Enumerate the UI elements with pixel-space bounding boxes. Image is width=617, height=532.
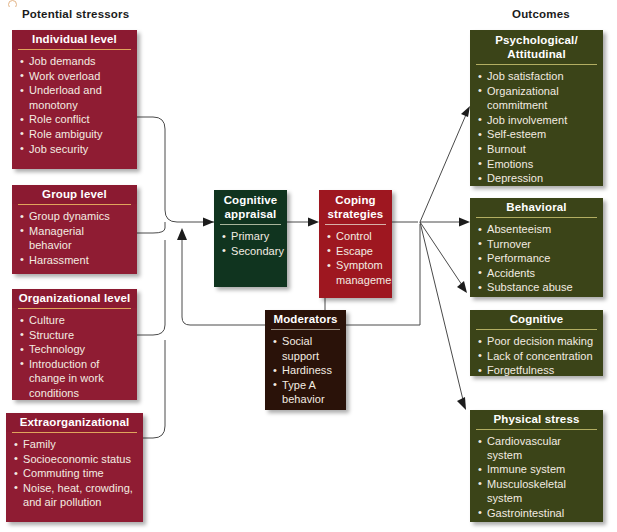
list-item: Primary [222, 230, 281, 244]
box-header: Organizational level [12, 289, 137, 308]
box-header-line2: appraisal [225, 208, 277, 220]
box-item-list: Culture Structure Technology Introductio… [12, 309, 137, 400]
list-item-continuation: conditions [20, 387, 131, 400]
list-item: Job demands [20, 55, 131, 69]
list-item-continuation: monotony [20, 99, 131, 113]
list-item: Introduction of [20, 358, 131, 372]
box-header-line1: Coping [335, 194, 376, 206]
list-item: Depression [478, 172, 597, 186]
center-box-moderators[interactable]: Moderators Social support Hardiness Type… [265, 310, 346, 410]
list-item: Underload and [20, 84, 131, 98]
box-item-list: Absenteeism Turnover Performance Acciden… [470, 218, 603, 297]
box-header: Group level [12, 185, 137, 204]
list-item-continuation: management [327, 274, 386, 288]
list-item: Gastrointestinal [478, 507, 597, 521]
arrowhead-into-cognitive [457, 281, 467, 293]
center-box-cognitive-appraisal[interactable]: Cognitive appraisal Primary Secondary [214, 190, 287, 287]
list-item: Turnover [478, 238, 597, 252]
box-header: Behavioral [470, 198, 603, 217]
list-item: Immune system [478, 463, 597, 477]
outcome-box-cognitive[interactable]: Cognitive Poor decision making Lack of c… [470, 310, 603, 376]
list-item: Accidents [478, 267, 597, 281]
list-item: Noise, heat, crowding, [14, 482, 137, 496]
list-item: Job involvement [478, 114, 597, 128]
list-item: Work overload [20, 70, 131, 84]
connector-organizational-to-bus [137, 240, 165, 335]
list-item: Social [273, 335, 340, 349]
box-header: Cognitive appraisal [214, 190, 287, 224]
box-header-line2: strategies [328, 208, 384, 220]
list-item: Role ambiguity [20, 128, 131, 142]
arrowhead-into-coping [308, 218, 319, 227]
stressor-box-organizational-level[interactable]: Organizational level Culture Structure T… [12, 289, 137, 400]
box-header: Coping strategies [319, 190, 392, 224]
list-item: Poor decision making [478, 335, 597, 349]
box-item-list: Poor decision making Lack of concentrati… [470, 330, 603, 376]
center-box-coping-strategies[interactable]: Coping strategies Control Escape Symptom… [319, 190, 392, 298]
box-item-list: Social support Hardiness Type A behavior [265, 330, 346, 410]
outcome-box-physical-stress[interactable]: Physical stress Cardiovascular system Im… [470, 410, 603, 522]
arrowhead-into-physical [457, 397, 466, 410]
connector-fan-to-physical [420, 222, 464, 404]
list-item: Forgetfulness [478, 364, 597, 376]
list-item: Job security [20, 143, 131, 157]
outcome-box-behavioral[interactable]: Behavioral Absenteeism Turnover Performa… [470, 198, 603, 297]
box-item-list: Job demands Work overload Underload and … [12, 50, 137, 163]
box-item-list: Cardiovascular system Immune system Musc… [470, 430, 603, 522]
list-item: Escape [327, 245, 386, 259]
list-item: Emotions [478, 158, 597, 172]
box-header: Psychological/ Attitudinal [470, 30, 603, 64]
connector-group-to-bus [137, 222, 165, 233]
list-item: Group dynamics [20, 210, 131, 224]
box-header: Extraorganizational [6, 413, 143, 432]
arrowhead-into-appraisal-left [203, 218, 214, 227]
box-item-list: Family Socioeconomic status Commuting ti… [6, 433, 143, 517]
list-item: Organizational [478, 85, 597, 99]
list-item: Self-esteem [478, 128, 597, 142]
stressor-box-group-level[interactable]: Group level Group dynamics Managerial be… [12, 185, 137, 274]
box-header-line1: Cognitive [224, 194, 278, 206]
list-item: Absenteeism [478, 223, 597, 237]
list-item-continuation: change in work [20, 372, 131, 386]
list-item-continuation: commitment [478, 99, 597, 113]
box-item-list: Control Escape Symptom management [319, 225, 392, 294]
list-item: Culture [20, 314, 131, 328]
connector-fan-to-cognitive [420, 222, 464, 288]
list-item-continuation: support [273, 350, 340, 364]
list-item: Burnout [478, 143, 597, 157]
list-item: Family [14, 438, 137, 452]
arrowhead-into-behavioral [459, 218, 470, 227]
stressor-box-individual-level[interactable]: Individual level Job demands Work overlo… [12, 30, 137, 169]
stressor-box-extraorganizational[interactable]: Extraorganizational Family Socioeconomic… [6, 413, 143, 522]
list-item: Symptom [327, 259, 386, 273]
list-item: Type A [273, 379, 340, 393]
box-header-line1: Psychological/ [495, 34, 578, 46]
list-item: Harassment [20, 254, 131, 268]
connector-fan-to-psychological [420, 110, 468, 222]
list-item: Socioeconomic status [14, 453, 137, 467]
list-item: Lack of concentration [478, 350, 597, 364]
box-header: Individual level [12, 30, 137, 49]
list-item: Secondary [222, 245, 281, 259]
list-item: Managerial [20, 225, 131, 239]
list-item-continuation: behavior [273, 393, 340, 407]
box-item-list: Job satisfaction Organizational commitme… [470, 65, 603, 186]
list-item: Commuting time [14, 467, 137, 481]
list-item: Performance [478, 252, 597, 266]
diagram-canvas: Potential stressors Outcomes Indiv [0, 0, 617, 532]
arrowhead-feedback-into-appraisal [177, 228, 187, 240]
list-item: Control [327, 230, 386, 244]
connector-individual-to-appraisal [137, 117, 214, 222]
list-item-continuation: and air pollution [14, 496, 137, 510]
list-item: Structure [20, 329, 131, 343]
list-item: Musculoskeletal [478, 478, 597, 492]
list-item-continuation: behavior [20, 239, 131, 253]
outcome-box-psychological-attitudinal[interactable]: Psychological/ Attitudinal Job satisfact… [470, 30, 603, 186]
box-item-list: Group dynamics Managerial behavior Haras… [12, 205, 137, 274]
box-header-line2: Attitudinal [507, 48, 566, 60]
list-item: Hardiness [273, 364, 340, 378]
list-item: Cardiovascular system [478, 435, 597, 462]
list-item: Technology [20, 343, 131, 357]
list-item: Job satisfaction [478, 70, 597, 84]
list-item: Substance abuse [478, 281, 597, 295]
